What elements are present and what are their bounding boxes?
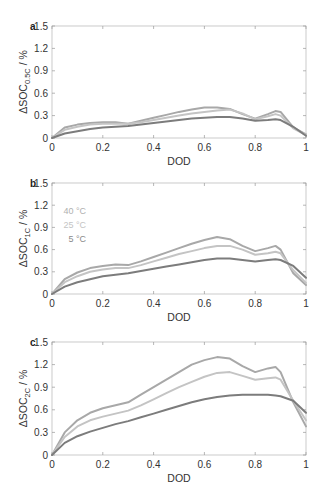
y-tick-label: 0.9 xyxy=(34,222,48,233)
panel-c: 00.30.60.91.21.500.20.40.60.81DODΔSOC2C … xyxy=(17,337,309,485)
x-tick-label: 0.4 xyxy=(147,142,161,153)
y-tick-label: 1.2 xyxy=(34,43,48,54)
x-axis-label: DOD xyxy=(167,311,191,323)
x-tick-label: 1 xyxy=(303,298,309,309)
x-tick-label: 0.4 xyxy=(147,298,161,309)
figure-caption-cutoff xyxy=(4,490,320,498)
plot-area xyxy=(52,183,306,294)
y-tick-label: 0.3 xyxy=(34,110,48,121)
y-tick-label: 0.9 xyxy=(34,65,48,76)
y-tick-label: 1.5 xyxy=(34,21,48,32)
legend-entry: 40 °C xyxy=(63,206,86,216)
series-line-5C xyxy=(52,395,306,455)
x-tick-label: 0.8 xyxy=(248,298,262,309)
y-tick-label: 1.5 xyxy=(34,178,48,189)
x-tick-label: 0.2 xyxy=(96,459,110,470)
x-tick-label: 0.8 xyxy=(248,142,262,153)
panel-label: a xyxy=(30,21,36,32)
series-line-40C xyxy=(52,107,306,138)
y-axis-label: ΔSOC2C / % xyxy=(17,370,32,427)
x-tick-label: 0.6 xyxy=(197,298,211,309)
legend-entry: 25 °C xyxy=(63,220,86,230)
plot-area xyxy=(52,26,306,138)
legend-entry: 5 °C xyxy=(68,234,86,244)
x-tick-label: 0 xyxy=(49,298,55,309)
x-axis-label: DOD xyxy=(167,155,191,167)
x-tick-label: 0.4 xyxy=(147,459,161,470)
series-line-40C xyxy=(52,237,306,294)
y-tick-label: 1.2 xyxy=(34,359,48,370)
series-line-5C xyxy=(52,117,306,138)
x-tick-label: 0.8 xyxy=(248,459,262,470)
x-axis-label: DOD xyxy=(167,472,191,484)
y-tick-label: 0.6 xyxy=(34,404,48,415)
y-tick-label: 1.2 xyxy=(34,200,48,211)
y-tick-label: 0.9 xyxy=(34,382,48,393)
panel-label: c xyxy=(30,337,36,348)
x-tick-label: 1 xyxy=(303,459,309,470)
panel-b: 00.30.60.91.21.500.20.40.60.81DODΔSOC1C … xyxy=(17,178,309,324)
y-axis-label: ΔSOC0.5C / % xyxy=(17,50,32,114)
plot-area xyxy=(52,342,306,455)
panel-a: 00.30.60.91.21.500.20.40.60.81DODΔSOC0.5… xyxy=(17,21,309,168)
y-axis-label: ΔSOC1C / % xyxy=(17,210,32,267)
y-tick-label: 0.3 xyxy=(34,266,48,277)
y-tick-label: 0 xyxy=(42,289,48,300)
panel-label: b xyxy=(30,178,36,189)
x-tick-label: 1 xyxy=(303,142,309,153)
y-tick-label: 0 xyxy=(42,133,48,144)
x-tick-label: 0 xyxy=(49,142,55,153)
x-tick-label: 0.2 xyxy=(96,142,110,153)
y-tick-label: 1.5 xyxy=(34,337,48,348)
x-tick-label: 0.6 xyxy=(197,142,211,153)
y-tick-label: 0.6 xyxy=(34,244,48,255)
x-tick-label: 0 xyxy=(49,459,55,470)
y-tick-label: 0.3 xyxy=(34,427,48,438)
y-tick-label: 0.6 xyxy=(34,88,48,99)
series-line-25C xyxy=(52,246,306,294)
y-tick-label: 0 xyxy=(42,450,48,461)
series-line-5C xyxy=(52,259,306,295)
x-tick-label: 0.2 xyxy=(96,298,110,309)
x-tick-label: 0.6 xyxy=(197,459,211,470)
figure: 00.30.60.91.21.500.20.40.60.81DODΔSOC0.5… xyxy=(0,0,323,498)
